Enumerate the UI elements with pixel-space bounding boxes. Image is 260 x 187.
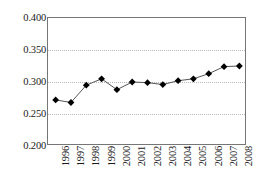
data-point-marker [236,63,243,70]
series-markers [52,63,242,106]
data-point-marker [175,77,182,84]
x-tick-label-7: 2003 [167,146,178,186]
x-tick-label-6: 2002 [152,146,163,186]
data-point-marker [129,79,136,86]
data-point-marker [98,75,105,82]
y-tick-label-0: 0.400 [10,12,46,23]
line-chart-figure: 0.400 0.350 0.300 0.250 0.200 1996199719… [0,0,260,187]
x-axis-tick-labels: 1996199719981999200020012002200320042005… [47,146,246,187]
x-tick-label-9: 2005 [197,146,208,186]
plot-area [47,17,246,145]
y-axis-tick-labels: 0.400 0.350 0.300 0.250 0.200 [6,0,46,187]
x-tick-label-10: 2006 [213,146,224,186]
x-tick-label-4: 2000 [121,146,132,186]
x-tick-label-8: 2004 [182,146,193,186]
y-tick-label-4: 0.200 [10,140,46,151]
data-point-marker [113,86,120,93]
y-tick-label-2: 0.300 [10,76,46,87]
x-tick-label-3: 1999 [106,146,117,186]
x-tick-label-11: 2007 [228,146,239,186]
y-tick-label-3: 0.250 [10,108,46,119]
data-point-marker [144,79,151,86]
data-point-marker [221,63,228,70]
x-tick-label-5: 2001 [136,146,147,186]
x-tick-label-2: 1998 [90,146,101,186]
x-tick-label-1: 1997 [75,146,86,186]
data-point-marker [52,97,59,104]
data-point-marker [159,81,166,88]
data-point-marker [190,75,197,82]
data-point-marker [205,70,212,77]
x-tick-label-0: 1996 [60,146,71,186]
data-series-line [48,18,246,145]
x-tick-label-12: 2008 [243,146,254,186]
y-tick-label-1: 0.350 [10,44,46,55]
